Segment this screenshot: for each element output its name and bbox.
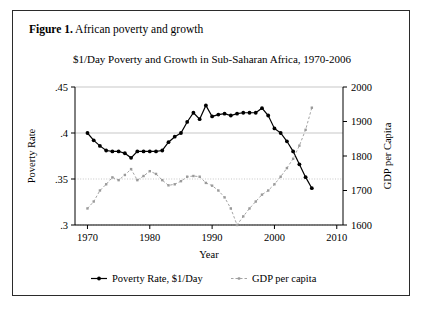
- svg-text:1990: 1990: [202, 232, 223, 243]
- svg-text:.3: .3: [60, 220, 68, 231]
- chart-svg: .3.35.4.45160017001800190020001970198019…: [13, 73, 411, 288]
- figure-caption-rest: African poverty and growth: [73, 23, 203, 35]
- data-series-layer: [86, 104, 314, 227]
- chart-legend: Poverty Rate, $1/DayGDP per capita: [91, 273, 317, 284]
- svg-text:2000: 2000: [264, 232, 285, 243]
- svg-text:1600: 1600: [351, 220, 372, 231]
- axis-ticks: [71, 87, 347, 229]
- svg-text:1700: 1700: [351, 185, 372, 196]
- figure-caption-bold: Figure 1.: [29, 23, 73, 35]
- svg-text:1980: 1980: [139, 232, 160, 243]
- svg-text:1800: 1800: [351, 151, 372, 162]
- svg-text:Poverty Rate: Poverty Rate: [26, 128, 37, 183]
- legend-item-gdp-per-capita: GDP per capita: [231, 273, 317, 284]
- svg-text:GDP per Capita: GDP per Capita: [382, 122, 393, 189]
- figure-frame: Figure 1. African poverty and growth $1/…: [12, 10, 410, 296]
- figure-caption: Figure 1. African poverty and growth: [29, 23, 203, 35]
- axis-tick-labels: .3.35.4.45160017001800190020001970198019…: [55, 82, 372, 244]
- chart-title: $1/Day Poverty and Growth in Sub-Saharan…: [13, 53, 411, 65]
- gridlines: [75, 87, 343, 225]
- svg-text:.35: .35: [55, 174, 68, 185]
- legend-item-poverty-rate: Poverty Rate, $1/Day: [91, 273, 203, 284]
- svg-text:GDP per capita: GDP per capita: [252, 273, 317, 284]
- svg-text:1900: 1900: [351, 116, 372, 127]
- axis-lines: [75, 87, 343, 225]
- svg-text:Poverty Rate, $1/Day: Poverty Rate, $1/Day: [112, 273, 203, 284]
- svg-text:.4: .4: [60, 128, 69, 139]
- svg-text:2000: 2000: [351, 82, 372, 93]
- svg-text:2010: 2010: [326, 232, 347, 243]
- chart-plot-area: .3.35.4.45160017001800190020001970198019…: [13, 73, 411, 288]
- svg-text:.45: .45: [55, 82, 68, 93]
- svg-text:1970: 1970: [77, 232, 98, 243]
- svg-text:Year: Year: [199, 249, 219, 260]
